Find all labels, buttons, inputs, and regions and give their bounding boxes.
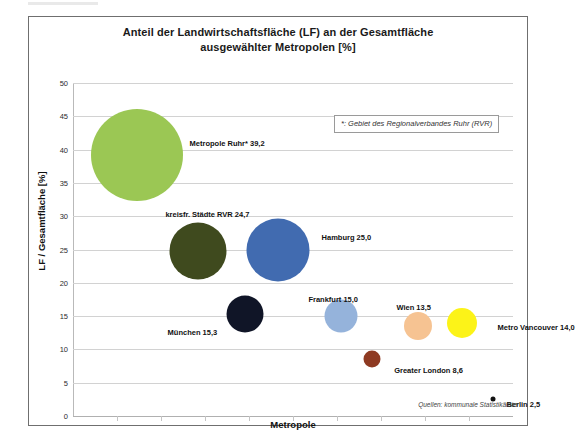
gridline: 30 [73, 216, 513, 217]
y-axis-tick-label: 20 [60, 278, 68, 287]
bubble-label: Metro Vancouver 14,0 [498, 323, 575, 332]
bubble-label: kreisfr. Städte RVR 24,7 [165, 209, 249, 218]
source-note: Quellen: kommunale Statistikämter [418, 401, 519, 408]
scan-artifact [28, 2, 98, 5]
bubble-label: Frankfurt 15,0 [308, 294, 358, 303]
y-axis-tick-label: 45 [60, 112, 68, 121]
bubble-metropole-ruhr[interactable] [91, 109, 183, 201]
gridline: 20 [73, 283, 513, 284]
chart-title-line-2: ausgewählter Metropolen [%] [29, 40, 527, 55]
gridline: 50 [73, 83, 513, 84]
y-axis-title: LF / Gesamtfläche [%] [36, 171, 47, 270]
bubble-label: München 15,3 [168, 328, 218, 337]
y-axis-tick-label: 50 [60, 79, 68, 88]
bubble-wien[interactable] [404, 312, 432, 340]
bubble-label: Metropole Ruhr* 39,2 [190, 138, 265, 147]
y-axis-tick-label: 10 [60, 345, 68, 354]
bubble-kreisfr-st-dte-rvr[interactable] [170, 223, 227, 280]
bubble-frankfurt[interactable] [325, 300, 358, 333]
chart-title-line-1: Anteil der Landwirtschaftsfläche (LF) an… [123, 26, 434, 38]
bubble-hamburg[interactable] [246, 218, 309, 281]
y-axis-tick-label: 30 [60, 212, 68, 221]
chart-title: Anteil der Landwirtschaftsfläche (LF) an… [29, 25, 527, 55]
y-axis-tick-label: 40 [60, 145, 68, 154]
y-axis-tick-label: 25 [60, 245, 68, 254]
gridline: 5 [73, 383, 513, 384]
bubble-label: Wien 13,5 [396, 303, 431, 312]
y-axis-tick-label: 0 [64, 412, 68, 421]
chart-frame: Anteil der Landwirtschaftsfläche (LF) an… [28, 16, 528, 426]
x-axis-title: Metropole [73, 419, 513, 430]
bubble-m-nchen[interactable] [226, 296, 263, 333]
gridline: 15 [73, 316, 513, 317]
bubble-label: Hamburg 25,0 [322, 232, 372, 241]
bubble-label: Greater London 8,6 [394, 366, 463, 375]
footnote-box: *: Gebiet des Regionalverbandes Ruhr (RV… [334, 115, 499, 133]
bubble-greater-london[interactable] [364, 350, 381, 367]
y-axis-tick-label: 5 [64, 378, 68, 387]
bubble-metro-vancouver[interactable] [447, 308, 477, 338]
y-axis-tick-label: 15 [60, 312, 68, 321]
gridline: 10 [73, 349, 513, 350]
y-axis-tick-label: 35 [60, 178, 68, 187]
